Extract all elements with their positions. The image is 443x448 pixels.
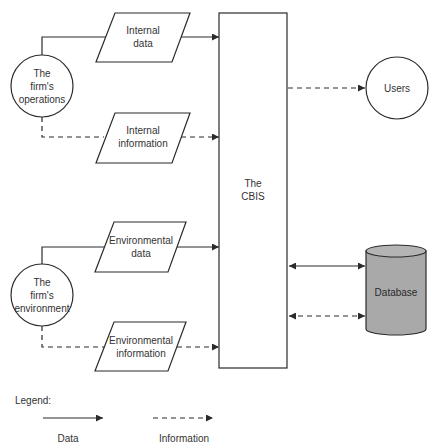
cbis-label-line: The — [241, 177, 264, 190]
operations-label-line: operations — [19, 93, 66, 106]
environment-label-line: The — [14, 276, 69, 289]
environmental-data-label: Environmental data — [109, 234, 173, 260]
legend-information-label: Information — [159, 432, 209, 445]
environment-label-line: firm's — [14, 289, 69, 302]
internal-information-label-line: information — [118, 137, 167, 150]
internal-information-label-line: Internal — [118, 124, 167, 137]
environmental-data-label-line: Environmental — [109, 234, 173, 247]
environmental-data-label-line: data — [109, 247, 173, 260]
edge-operations-internal-information — [42, 117, 104, 137]
environmental-information-label-line: Environmental — [109, 334, 173, 347]
environmental-information-label-line: information — [109, 347, 173, 360]
operations-label-line: firm's — [19, 80, 66, 93]
environment-label: The firm's environment — [14, 276, 69, 315]
edge-operations-internal-data — [42, 37, 108, 55]
database-label: Database — [375, 286, 418, 299]
internal-data-label-line: data — [126, 37, 159, 50]
cbis-label: The CBIS — [241, 177, 264, 203]
edge-environment-environmental-data — [42, 247, 104, 264]
legend-title: Legend: — [15, 394, 51, 407]
users-label: Users — [384, 82, 410, 95]
environmental-information-label: Environmental information — [109, 334, 173, 360]
operations-label: The firm's operations — [19, 67, 66, 106]
cbis-label-line: CBIS — [241, 190, 264, 203]
internal-data-label: Internal data — [126, 24, 159, 50]
cbis-diagram — [0, 0, 443, 448]
environment-label-line: environment — [14, 302, 69, 315]
internal-information-label: Internal information — [118, 124, 167, 150]
operations-label-line: The — [19, 67, 66, 80]
internal-data-label-line: Internal — [126, 24, 159, 37]
legend-data-label: Data — [57, 432, 78, 445]
edge-environment-environmental-information — [42, 326, 104, 347]
